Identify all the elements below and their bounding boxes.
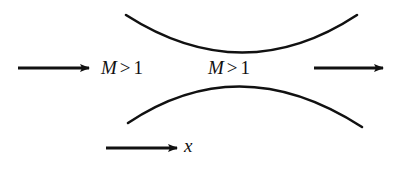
outlet-mach-value: 1 [241, 57, 251, 78]
x-axis-label: x [184, 136, 192, 155]
lower-nozzle-wall [128, 86, 362, 127]
inlet-mach-label: M>1 [101, 58, 143, 77]
inlet-mach-variable: M [101, 57, 117, 78]
upper-nozzle-wall [126, 15, 357, 53]
outlet-mach-label: M>1 [208, 58, 250, 77]
outlet-mach-variable: M [208, 57, 224, 78]
nozzle-diagram [0, 0, 394, 173]
inlet-mach-value: 1 [134, 57, 144, 78]
outlet-mach-operator: > [227, 57, 238, 78]
inlet-mach-operator: > [120, 57, 131, 78]
